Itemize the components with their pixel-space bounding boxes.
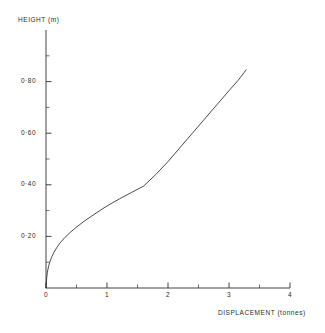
axis-spines xyxy=(46,30,290,288)
x-tick-label: 3 xyxy=(219,291,239,298)
data-curve xyxy=(46,70,246,288)
plot-area xyxy=(0,0,325,333)
data-series-group xyxy=(46,70,246,288)
x-tick-label: 0 xyxy=(36,291,56,298)
y-tick-label: 0·60 xyxy=(6,129,36,136)
y-tick-label: 0·20 xyxy=(6,232,36,239)
x-tick-label: 4 xyxy=(280,291,300,298)
x-tick-label: 2 xyxy=(158,291,178,298)
tick-marks xyxy=(46,56,290,288)
x-tick-label: 1 xyxy=(97,291,117,298)
chart-figure: HEIGHT (m) DISPLACEMENT (tonnes) 0·200·4… xyxy=(0,0,325,333)
y-tick-label: 0·80 xyxy=(6,77,36,84)
y-tick-label: 0·40 xyxy=(6,180,36,187)
